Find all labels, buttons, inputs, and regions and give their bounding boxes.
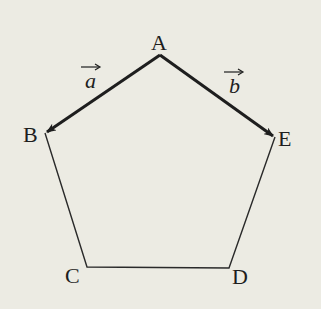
vector-a-arrow xyxy=(47,55,160,132)
vector-b-label: b xyxy=(229,75,240,97)
vector-a-label: a xyxy=(85,70,96,92)
vertex-label-c: C xyxy=(65,265,80,287)
pentagon-diagram: A B E C D a b xyxy=(0,0,321,309)
vector-b-arrow xyxy=(160,55,273,136)
vertex-label-e: E xyxy=(278,128,291,150)
vertex-label-d: D xyxy=(232,266,248,288)
edge-b-c-d-e xyxy=(45,133,275,268)
vertex-label-b: B xyxy=(23,124,38,146)
vertex-label-a: A xyxy=(151,32,167,54)
